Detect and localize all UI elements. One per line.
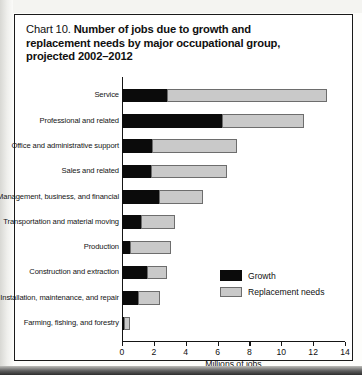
stacked-bar: [122, 317, 130, 331]
bar-row: Farming, fishing, and forestry: [15, 311, 354, 336]
stacked-bar: [122, 291, 160, 305]
bar-segment-replacement: [167, 89, 328, 103]
bar-segment-replacement: [159, 190, 204, 204]
bar-segment-replacement: [141, 215, 174, 229]
legend-item-growth: Growth: [220, 269, 324, 282]
chart-title-line-2: replacement needs by major occupational …: [26, 37, 338, 51]
category-label: Office and administrative support: [0, 142, 119, 151]
page-top-margin: [0, 0, 362, 13]
bar-segment-growth: [122, 89, 167, 103]
legend-label-growth: Growth: [248, 271, 276, 281]
bar-segment-growth: [122, 215, 141, 229]
x-tick-label: 12: [308, 347, 318, 357]
page-bottom-edge: [0, 366, 362, 375]
category-label: Sales and related: [0, 167, 119, 176]
plot-area: ServiceProfessional and relatedOffice an…: [15, 73, 354, 362]
bar-segment-growth: [122, 266, 147, 280]
category-label: Transportation and material moving: [0, 218, 119, 227]
x-tick-label: 8: [247, 347, 252, 357]
x-tick-label: 14: [340, 347, 350, 357]
stacked-bar: [122, 89, 327, 103]
chart-legend: Growth Replacement needs: [220, 269, 324, 302]
bar-segment-growth: [122, 241, 130, 255]
legend-item-replacement: Replacement needs: [220, 286, 324, 299]
stacked-bar: [122, 190, 203, 204]
bar-segment-replacement: [151, 165, 227, 179]
x-tick-mark: [281, 342, 282, 346]
bar-segment-growth: [122, 139, 152, 153]
x-tick-mark: [249, 342, 250, 346]
bar-segment-growth: [122, 291, 138, 305]
x-tick-mark: [154, 342, 155, 346]
bar-row: Professional and related: [15, 108, 354, 133]
x-tick-mark: [218, 342, 219, 346]
x-tick-label: 4: [183, 347, 188, 357]
stacked-bar: [122, 165, 227, 179]
x-tick-label: 2: [151, 347, 156, 357]
bar-row: Sales and related: [15, 159, 354, 184]
legend-label-replacement: Replacement needs: [248, 287, 324, 297]
category-label: Service: [0, 91, 119, 100]
chart-title-line-1: Chart 10. Number of jobs due to growth a…: [26, 23, 338, 37]
bar-segment-replacement: [130, 241, 171, 255]
bar-segment-growth: [122, 114, 222, 128]
x-tick-mark: [186, 342, 187, 346]
x-tick-label: 6: [215, 347, 220, 357]
x-tick-mark: [313, 342, 314, 346]
legend-swatch-growth-icon: [220, 270, 242, 281]
chart-number-label: Chart 10.: [26, 23, 71, 35]
bar-segment-replacement: [222, 114, 303, 128]
stacked-bar: [122, 266, 167, 280]
stacked-bar: [122, 215, 175, 229]
category-label: Farming, fishing, and forestry: [0, 319, 119, 328]
chart-title-main-1: Number of jobs due to growth and: [74, 23, 251, 35]
chart-frame: Chart 10. Number of jobs due to growth a…: [14, 14, 353, 361]
bar-row: Transportation and material moving: [15, 209, 354, 234]
bar-row: Production: [15, 235, 354, 260]
bar-segment-replacement: [124, 317, 130, 331]
bar-segment-replacement: [138, 291, 160, 305]
x-tick-mark: [122, 342, 123, 346]
chart-title-line-3: projected 2002–2012: [26, 50, 338, 64]
x-axis-line: [122, 341, 345, 342]
bar-row: Office and administrative support: [15, 134, 354, 159]
legend-swatch-replacement-icon: [220, 287, 242, 298]
bar-segment-replacement: [152, 139, 236, 153]
stacked-bar: [122, 241, 171, 255]
page-canvas: Chart 10. Number of jobs due to growth a…: [0, 0, 362, 375]
stacked-bar: [122, 114, 304, 128]
category-label: Construction and extraction: [0, 268, 119, 277]
bar-segment-growth: [122, 165, 151, 179]
category-label: Installation, maintenance, and repair: [0, 294, 119, 303]
bar-segment-replacement: [147, 266, 166, 280]
x-tick-label: 10: [277, 347, 287, 357]
bar-row: Management, business, and financial: [15, 184, 354, 209]
category-label: Production: [0, 243, 119, 252]
bar-row: Service: [15, 83, 354, 108]
bar-segment-growth: [122, 190, 159, 204]
x-tick-label: 0: [120, 347, 125, 357]
chart-title: Chart 10. Number of jobs due to growth a…: [26, 23, 338, 64]
category-label: Professional and related: [0, 117, 119, 126]
stacked-bar: [122, 139, 237, 153]
category-label: Management, business, and financial: [0, 193, 119, 202]
x-tick-mark: [345, 342, 346, 346]
